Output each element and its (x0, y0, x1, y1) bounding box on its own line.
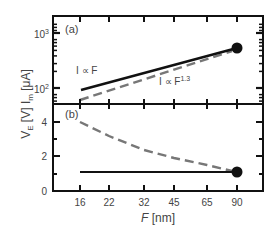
annotation-i-prop-f: I ∝ F (76, 65, 97, 76)
panel-a: 103 102 (a) I ∝ F I ∝ F1.3 (34, 16, 263, 104)
svg-text:45: 45 (168, 197, 180, 208)
ytick-b-4: 4 (41, 117, 47, 128)
ytick-b-0: 0 (41, 186, 47, 197)
panel-b: 4 2 0 (b) (41, 99, 263, 197)
panel-b-label: (b) (65, 108, 78, 120)
annotation-i-prop-f1.3: I ∝ F1.3 (159, 75, 190, 87)
svg-text:16: 16 (74, 197, 86, 208)
panel-a-right-log-ticks (256, 24, 263, 101)
x-axis-label: F [nm] (141, 211, 175, 225)
svg-text:90: 90 (231, 197, 243, 208)
panel-b-y-ticks (53, 122, 263, 174)
ytick-a-1000: 103 (34, 28, 49, 40)
svg-text:65: 65 (201, 197, 213, 208)
panel-a-label: (a) (65, 23, 78, 35)
marker-a-90nm (232, 43, 243, 54)
ytick-b-2: 2 (41, 151, 47, 162)
ytick-a-100: 102 (34, 83, 49, 95)
series-i-prop-f1.3 (80, 51, 232, 100)
panel-a-frame (53, 16, 263, 104)
series-ve-scaled (80, 122, 232, 171)
svg-text:22: 22 (103, 197, 115, 208)
marker-b-90nm (232, 167, 243, 178)
y-axis-label: VE [V] Im [μA] (19, 69, 35, 139)
panel-a-left-log-ticks (53, 24, 60, 101)
x-tick-labels: 16 22 32 45 65 90 (74, 197, 243, 208)
svg-text:32: 32 (138, 197, 150, 208)
panel-b-frame (53, 104, 263, 191)
figure: VE [V] Im [μA] (0, 0, 278, 234)
